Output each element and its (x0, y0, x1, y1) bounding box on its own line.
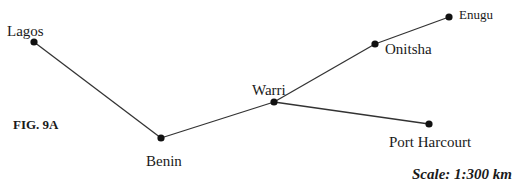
node-label-port-harcourt: Port Harcourt (389, 135, 471, 150)
node-benin-dot (157, 134, 164, 141)
edge-onitsha-enugu (375, 17, 449, 44)
node-label-lagos: Lagos (7, 24, 44, 39)
node-label-enugu: Enugu (459, 8, 493, 21)
scale-label: Scale: 1:300 km (412, 167, 512, 182)
edge-benin-warri (161, 102, 274, 138)
node-onitsha-dot (371, 40, 378, 47)
node-label-onitsha: Onitsha (385, 42, 432, 57)
edge-warri-onitsha (274, 44, 375, 102)
figure-label: FIG. 9A (13, 118, 59, 131)
route-map-diagram: Lagos Benin Warri Onitsha Enugu Port Har… (0, 0, 517, 188)
node-label-benin: Benin (146, 154, 182, 169)
node-port-harcourt-dot (425, 120, 432, 127)
node-lagos-dot (30, 38, 37, 45)
edge-warri-port-harcourt (274, 102, 429, 124)
node-enugu-dot (445, 13, 452, 20)
node-warri-dot (270, 98, 277, 105)
node-label-warri: Warri (252, 83, 286, 98)
